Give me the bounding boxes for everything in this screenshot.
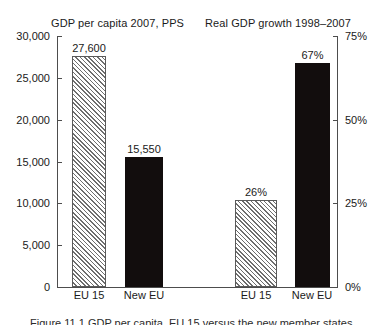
y-tick-label-left-5000: 5,000 — [22, 240, 50, 251]
y-tick-label-left-25000: 25,000 — [16, 73, 50, 84]
bar-growth-eu15: 26% — [235, 200, 277, 287]
x-category-label-growth-eu15: EU 15 — [241, 290, 272, 301]
y-tick-label-right-25: 25% — [345, 198, 367, 209]
bar-chart-figure: GDP per capita 2007, PPS Real GDP growth… — [0, 0, 389, 325]
panel-title-real-gdp-growth: Real GDP growth 1998–2007 — [205, 17, 351, 29]
figure-caption-clipped: Figure 11.1 GDP per capita, EU 15 versus… — [30, 317, 370, 325]
y-tick-left-15000 — [58, 162, 62, 163]
x-category-label-gdp-new-eu: New EU — [124, 290, 164, 301]
panel-title-gdp-per-capita: GDP per capita 2007, PPS — [51, 17, 184, 29]
x-category-label-growth-new-eu: New EU — [292, 290, 332, 301]
y-tick-right-50 — [333, 120, 337, 121]
y-tick-left-25000 — [58, 78, 62, 79]
bar-value-growth-new-eu: 67% — [301, 50, 323, 61]
y-tick-label-left-0: 0 — [44, 282, 50, 293]
plot-area: 30,000 25,000 20,000 15,000 10,000 5,000… — [57, 36, 338, 287]
y-tick-label-right-50: 50% — [345, 115, 367, 126]
bar-value-gdp-eu15: 27,600 — [72, 43, 106, 54]
y-axis-right-line — [337, 36, 338, 287]
bar-gdp-eu15: 27,600 — [72, 56, 106, 287]
y-tick-right-25 — [333, 203, 337, 204]
y-tick-left-20000 — [58, 120, 62, 121]
y-tick-label-left-30000: 30,000 — [16, 31, 50, 42]
y-tick-left-5000 — [58, 245, 62, 246]
y-tick-left-0 — [58, 287, 62, 288]
y-tick-label-left-10000: 10,000 — [16, 198, 50, 209]
y-tick-label-left-15000: 15,000 — [16, 157, 50, 168]
y-tick-right-75 — [333, 36, 337, 37]
bar-value-gdp-new-eu: 15,550 — [127, 144, 161, 155]
x-axis-baseline — [57, 287, 338, 288]
bar-value-growth-eu15: 26% — [245, 187, 267, 198]
y-tick-left-10000 — [58, 203, 62, 204]
y-tick-right-0 — [333, 287, 337, 288]
y-tick-left-30000 — [58, 36, 62, 37]
y-tick-label-right-75: 75% — [345, 31, 367, 42]
x-category-label-gdp-eu15: EU 15 — [74, 290, 105, 301]
y-tick-label-right-0: 0% — [345, 282, 361, 293]
bar-gdp-new-eu: 15,550 — [125, 157, 163, 287]
bar-growth-new-eu: 67% — [295, 63, 330, 287]
y-tick-label-left-20000: 20,000 — [16, 115, 50, 126]
